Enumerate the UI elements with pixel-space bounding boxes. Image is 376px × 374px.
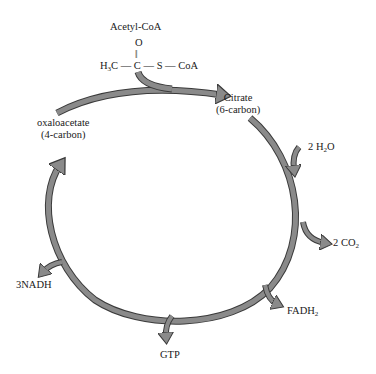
co2-sub: 2 — [355, 242, 359, 250]
oxaloacetate-name: oxaloacetate — [37, 117, 89, 129]
arrow-nadh-out — [43, 262, 62, 272]
water-prefix: 2 H — [308, 141, 323, 152]
bond-dash: — — [121, 60, 132, 71]
arrow-gtp-out — [166, 316, 172, 337]
methyl-c: C — [111, 60, 118, 71]
fadh2-prefix: FADH — [287, 305, 315, 316]
co2-prefix: 2 CO — [333, 237, 355, 248]
water-suffix: O — [327, 141, 335, 152]
fadh2-label: FADH2 — [287, 305, 318, 320]
carbonyl-c: C — [134, 60, 141, 71]
citrate-detail: (6-carbon) — [216, 104, 260, 116]
arrow-co2-out — [303, 222, 325, 243]
fadh2-sub: 2 — [315, 310, 319, 318]
oxaloacetate-detail: (4-carbon) — [37, 129, 89, 141]
citrate-name: Citrate — [216, 92, 260, 104]
methyl-h: H — [100, 60, 108, 71]
gtp-label: GTP — [160, 349, 180, 361]
arc-oxaloacetate-to-citrate — [57, 90, 222, 113]
acetyl-coa-structure: H3C — C — S — CoA — [100, 60, 198, 75]
co2-label: 2 CO2 — [333, 237, 359, 252]
arrow-water-in — [294, 147, 299, 170]
oxaloacetate-label: oxaloacetate (4-carbon) — [37, 117, 89, 141]
citrate-label: Citrate (6-carbon) — [216, 92, 260, 116]
acetyl-coa-label: Acetyl-CoA — [110, 21, 161, 33]
arc-citrate-to-oxaloacetate — [48, 118, 295, 321]
acetyl-coa-double-bond: || — [135, 47, 137, 59]
coa: CoA — [178, 60, 198, 71]
cycle-diagram — [0, 0, 376, 374]
sulfur: S — [157, 60, 163, 71]
water-label: 2 H2O — [308, 141, 335, 156]
bond-dash: — — [165, 60, 176, 71]
bond-dash: — — [144, 60, 155, 71]
nadh-label: 3NADH — [16, 279, 52, 291]
